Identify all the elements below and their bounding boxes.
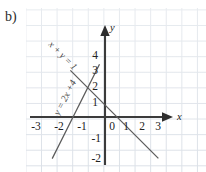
- line-x-plus-y-equals-1: [70, 70, 158, 158]
- x-tick-labels: -3 -2 -1 0 1 2 3: [31, 120, 161, 132]
- y-axis-label: y: [109, 22, 115, 33]
- x-tick-label: 3: [155, 120, 161, 132]
- y-tick-label: 2: [92, 80, 98, 92]
- x-tick-label-origin: 0: [109, 120, 115, 132]
- x-tick-label: -1: [77, 120, 87, 132]
- y-tick-label: 4: [92, 49, 98, 61]
- y-tick-labels: 4 3 2 1 -1 -2: [91, 49, 101, 164]
- y-tick-label: -1: [91, 132, 101, 144]
- line-label-x-plus-y-equals-1: x + y = 1: [46, 38, 80, 72]
- x-axis-label: x: [176, 111, 182, 122]
- coordinate-plot: x y x + y = 1 y = 2x +4 -3 -2 -1 0 1 2 3…: [0, 0, 206, 172]
- x-axis-arrow-icon: [162, 112, 173, 121]
- line-label-y-equals-2x-plus-4: y = 2x +4: [51, 78, 79, 118]
- series-y-equals-2x-plus-4: y = 2x +4: [51, 64, 100, 158]
- x-tick-label: 2: [139, 120, 145, 132]
- x-tick-label: -3: [31, 120, 41, 132]
- y-axis-arrow-icon: [100, 25, 109, 36]
- x-tick-label: 1: [123, 120, 129, 132]
- graph-figure-screenshot: b) x y x + y = 1 y = 2x +4 -3 -2: [0, 0, 206, 172]
- x-tick-label: -2: [54, 120, 64, 132]
- y-tick-label: 3: [92, 64, 98, 76]
- y-tick-label: -2: [91, 152, 101, 164]
- y-tick-label: 1: [92, 96, 98, 108]
